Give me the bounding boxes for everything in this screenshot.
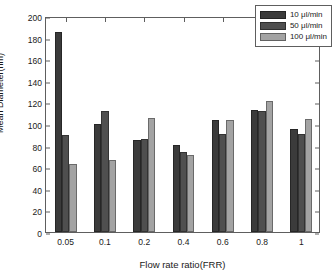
- plot-area: 020406080100120140160180200 0.050.10.20.…: [45, 17, 320, 233]
- bar: [180, 152, 187, 232]
- bar: [101, 111, 108, 232]
- y-tick-label: 100: [16, 121, 42, 131]
- y-tick-label: 140: [16, 78, 42, 88]
- x-tick-label: 0.4: [178, 237, 190, 247]
- y-tick-mark: [315, 169, 319, 170]
- bar: [55, 32, 62, 232]
- bar: [173, 145, 180, 232]
- legend: 10 μl/min50 μl/min100 μl/min: [255, 5, 332, 47]
- y-tick-mark: [46, 147, 50, 148]
- y-tick-mark: [315, 126, 319, 127]
- y-tick-label: 120: [16, 99, 42, 109]
- legend-swatch: [260, 11, 286, 19]
- bar-group: [173, 18, 195, 232]
- y-tick-mark: [46, 190, 50, 191]
- bar-group: [212, 18, 234, 232]
- bar: [251, 110, 258, 232]
- bar: [109, 160, 116, 232]
- x-tick-label: 0.8: [256, 237, 268, 247]
- y-tick-mark: [315, 212, 319, 213]
- y-tick-mark: [46, 234, 50, 235]
- y-tick-mark: [46, 104, 50, 105]
- bar: [305, 119, 312, 232]
- y-tick-label: 200: [16, 13, 42, 23]
- bar: [298, 134, 305, 232]
- y-tick-label: 20: [16, 207, 42, 217]
- y-tick-label: 80: [16, 143, 42, 153]
- bar: [226, 120, 233, 232]
- legend-swatch: [260, 33, 286, 41]
- y-tick-mark: [46, 82, 50, 83]
- legend-swatch: [260, 22, 286, 30]
- legend-entry: 10 μl/min: [260, 10, 327, 20]
- figure-canvas: 020406080100120140160180200 0.050.10.20.…: [0, 0, 336, 279]
- bar: [212, 120, 219, 232]
- y-tick-mark: [315, 61, 319, 62]
- y-tick-mark: [46, 126, 50, 127]
- y-tick-label: 160: [16, 56, 42, 66]
- bar: [69, 164, 76, 232]
- y-tick-mark: [46, 169, 50, 170]
- bar-group: [55, 18, 77, 232]
- bar: [266, 101, 273, 232]
- bar: [219, 134, 226, 232]
- bar: [133, 140, 140, 232]
- y-tick-label: 60: [16, 164, 42, 174]
- bar: [258, 111, 265, 232]
- y-tick-mark: [46, 61, 50, 62]
- bar-group: [290, 18, 312, 232]
- legend-entry: 100 μl/min: [260, 32, 327, 42]
- y-axis-title: Mean Diameter(nm): [0, 38, 5, 148]
- bar: [141, 139, 148, 232]
- bar: [290, 129, 297, 232]
- x-tick-label: 0.6: [217, 237, 229, 247]
- bar-group: [133, 18, 155, 232]
- legend-entry: 50 μl/min: [260, 21, 327, 31]
- x-tick-label: 0.2: [138, 237, 150, 247]
- y-tick-mark: [46, 212, 50, 213]
- y-tick-label: 0: [16, 229, 42, 239]
- legend-label: 100 μl/min: [290, 32, 327, 42]
- bar-group: [251, 18, 273, 232]
- legend-label: 50 μl/min: [290, 21, 323, 31]
- y-tick-mark: [315, 147, 319, 148]
- bar-group: [94, 18, 116, 232]
- y-tick-mark: [315, 82, 319, 83]
- bar: [94, 124, 101, 232]
- y-tick-mark: [315, 190, 319, 191]
- y-tick-mark: [315, 104, 319, 105]
- y-tick-label: 40: [16, 186, 42, 196]
- bar: [187, 155, 194, 232]
- legend-label: 10 μl/min: [290, 10, 323, 20]
- y-tick-mark: [46, 18, 50, 19]
- x-tick-label: 0.05: [57, 237, 74, 247]
- x-axis-title: Flow rate ratio(FRR): [45, 259, 320, 270]
- y-tick-label: 180: [16, 35, 42, 45]
- y-tick-mark: [315, 234, 319, 235]
- x-tick-label: 1: [299, 237, 304, 247]
- y-tick-mark: [46, 39, 50, 40]
- x-tick-label: 0.1: [99, 237, 111, 247]
- bar: [148, 118, 155, 232]
- bar: [62, 135, 69, 232]
